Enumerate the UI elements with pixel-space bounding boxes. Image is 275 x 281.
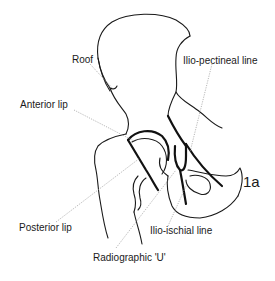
greater-trochanter [95, 134, 126, 238]
ilio-pectineal-lower [186, 144, 222, 186]
label-radiographic-u: Radiographic 'U' [93, 253, 166, 263]
iliac-wing-right [176, 36, 222, 128]
label-posterior-lip: Posterior lip [19, 223, 72, 233]
ilio-pectineal-bold [168, 116, 186, 146]
lesser-trochanter [138, 178, 146, 210]
leader-posterior-lip [56, 158, 140, 222]
femoral-neck-inner [133, 176, 138, 212]
teardrop-u [175, 144, 186, 170]
pelvis-drawing [0, 0, 275, 281]
femoral-shaft-medial [134, 212, 142, 244]
figure-number: 1a [243, 174, 260, 189]
iliac-wing-right-inner [168, 92, 176, 116]
leader-roof [90, 64, 114, 90]
label-ilio-ischial-line: Ilio-ischial line [150, 226, 212, 236]
acetabular-roof-arc [128, 131, 169, 160]
label-roof: Roof [72, 55, 93, 65]
iliac-left-descent [110, 88, 128, 134]
label-ilio-pectineal-line: Ilio-pectineal line [183, 56, 258, 66]
leader-ilio-pectineal [190, 64, 212, 152]
ischium-lower [167, 176, 238, 218]
superior-pubic-ramus [188, 168, 242, 196]
obturator-foramen [186, 175, 210, 194]
label-anterior-lip: Anterior lip [20, 100, 68, 110]
posterior-wall-line [128, 140, 158, 190]
ilio-ischial-bold [180, 170, 186, 204]
iliac-wing-lower-left [98, 58, 117, 89]
hip-diagram: Roof Anterior lip Posterior lip Radiogra… [0, 0, 275, 281]
